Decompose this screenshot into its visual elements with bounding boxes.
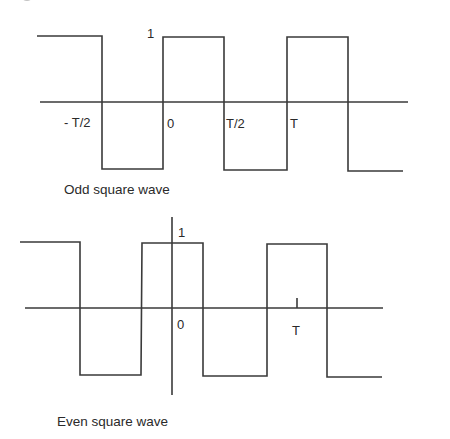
even-caption: Even square wave	[57, 415, 168, 429]
odd-origin-label: 0	[167, 117, 174, 130]
even-origin-label: 0	[177, 318, 184, 331]
odd-square-wave-diagram	[0, 0, 450, 439]
odd-neg-half-period-label: - T/2	[64, 116, 91, 129]
odd-caption: Odd square wave	[64, 183, 170, 197]
even-amplitude-label: 1	[178, 226, 185, 239]
odd-amplitude-label: 1	[147, 27, 154, 40]
odd-half-period-label: T/2	[226, 117, 245, 130]
even-waveform	[20, 242, 382, 377]
odd-waveform	[37, 36, 403, 171]
odd-period-label: T	[290, 117, 298, 130]
even-period-label: T	[292, 324, 300, 337]
